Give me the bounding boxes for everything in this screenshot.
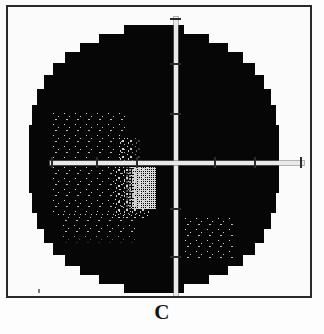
horizontal-tick-minus-10 (136, 157, 138, 168)
horizontal-tick-20 (254, 157, 256, 168)
plot-canvas (8, 7, 310, 296)
print-artifact-speck (38, 289, 40, 293)
visual-field-disc (29, 25, 279, 293)
vertical-tick-10 (170, 113, 181, 115)
region-upper-left-tail (118, 137, 142, 163)
figure-caption: C (0, 300, 324, 325)
horizontal-axis (50, 161, 304, 165)
horizontal-tick-10 (214, 157, 216, 168)
disc-shape (29, 25, 279, 293)
vertical-tick-top-end (170, 18, 181, 20)
horizontal-tick-minus-20 (96, 157, 98, 168)
vertical-tick-20 (170, 63, 181, 65)
horizontal-tick-left-end (51, 157, 53, 168)
vertical-tick-minus-10 (170, 208, 181, 210)
region-lower-right-dither (184, 217, 234, 259)
figure-panel: C (0, 0, 324, 334)
region-paracentral-checker-fade (124, 167, 140, 209)
vertical-axis (174, 17, 178, 296)
horizontal-tick-right-end (300, 157, 302, 168)
vertical-tick-minus-20 (170, 256, 181, 258)
